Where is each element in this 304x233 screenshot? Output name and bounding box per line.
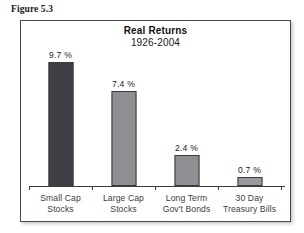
figure-caption: Figure 5.3 bbox=[11, 4, 53, 14]
category-label-line: Small Cap bbox=[29, 193, 92, 204]
x-axis-tick bbox=[29, 186, 30, 190]
bar-rect bbox=[237, 177, 262, 186]
category-label-line: Treasury Bills bbox=[218, 204, 281, 215]
chart-title: Real Returns bbox=[21, 25, 290, 37]
bar-value-label: 9.7 % bbox=[29, 50, 92, 60]
category-label-line: 30 Day bbox=[218, 193, 281, 204]
x-axis-line bbox=[29, 186, 285, 187]
category-label-line: Large Cap bbox=[92, 193, 155, 204]
bar-group-30-day-treasury-bills: 0.7 % bbox=[218, 53, 281, 186]
category-label-30-day-treasury-bills: 30 Day Treasury Bills bbox=[218, 193, 281, 215]
x-axis-tick bbox=[218, 186, 219, 190]
chart-title-block: Real Returns 1926-2004 bbox=[21, 25, 290, 49]
category-label-line: Stocks bbox=[29, 204, 92, 215]
category-label-line: Stocks bbox=[92, 204, 155, 215]
frame-sheen bbox=[21, 21, 290, 23]
bar-group-large-cap-stocks: 7.4 % bbox=[92, 53, 155, 186]
x-axis-tick bbox=[155, 186, 156, 190]
bar-rect bbox=[48, 62, 73, 186]
category-label-large-cap-stocks: Large Cap Stocks bbox=[92, 193, 155, 215]
bar-rect bbox=[111, 91, 136, 186]
category-label-long-term-govt-bonds: Long Term Gov't Bonds bbox=[155, 193, 218, 215]
bar-group-long-term-govt-bonds: 2.4 % bbox=[155, 53, 218, 186]
category-label-small-cap-stocks: Small Cap Stocks bbox=[29, 193, 92, 215]
chart-frame: Real Returns 1926-2004 9.7 % 7.4 % 2.4 %… bbox=[20, 20, 291, 222]
plot-area: 9.7 % 7.4 % 2.4 % 0.7 % bbox=[29, 53, 284, 186]
category-label-line: Long Term bbox=[155, 193, 218, 204]
bar-value-label: 0.7 % bbox=[218, 165, 281, 175]
x-axis-tick bbox=[281, 186, 282, 190]
bar-value-label: 7.4 % bbox=[92, 79, 155, 89]
bar-group-small-cap-stocks: 9.7 % bbox=[29, 53, 92, 186]
chart-subtitle: 1926-2004 bbox=[21, 37, 290, 49]
bar-value-label: 2.4 % bbox=[155, 143, 218, 153]
category-label-line: Gov't Bonds bbox=[155, 204, 218, 215]
x-axis-tick bbox=[92, 186, 93, 190]
x-axis-category-labels: Small Cap Stocks Large Cap Stocks Long T… bbox=[29, 193, 284, 223]
bar-rect bbox=[174, 155, 199, 186]
